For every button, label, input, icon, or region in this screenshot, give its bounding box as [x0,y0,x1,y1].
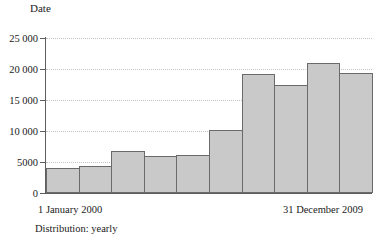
bar [274,85,308,194]
x-axis-line [45,193,372,194]
date-histogram-figure: Date 25 000 20 000 15 000 10 000 5000 0 … [0,0,390,246]
bar [242,74,276,193]
y-tick-label-5000: 5000 [0,157,38,168]
bar-series [46,38,372,193]
y-tick-label-10000: 10 000 [0,126,38,137]
y-tick-label-20000: 20 000 [0,64,38,75]
bar [307,63,341,193]
chart-title: Date [30,2,51,15]
bar [79,166,113,193]
y-tick-label-0: 0 [0,188,38,199]
bar [209,130,243,193]
y-tick-mark-0 [40,193,46,194]
y-tick-label-25000: 25 000 [0,33,38,44]
bar [144,156,178,193]
axis-range-end-label: 31 December 2009 [283,203,363,216]
axis-range-start-label: 1 January 2000 [38,203,102,216]
y-tick-label-15000: 15 000 [0,95,38,106]
bar [339,73,373,193]
distribution-label: Distribution: yearly [35,222,118,235]
bar [111,151,145,193]
bar [46,168,80,193]
bar [176,155,210,193]
